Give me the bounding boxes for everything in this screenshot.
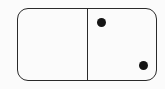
domino-divider <box>87 8 88 81</box>
pip-icon <box>97 18 106 27</box>
pip-icon <box>139 61 148 70</box>
